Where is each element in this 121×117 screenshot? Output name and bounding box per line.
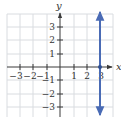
y-axis-label: y	[55, 0, 62, 11]
x-axis-label: x	[116, 61, 121, 72]
x-tick-label: −2	[23, 71, 36, 81]
x-tick-label: 2	[84, 71, 90, 81]
x-tick-label: −3	[9, 71, 23, 81]
x-intercept-point	[98, 65, 102, 69]
y-tick-label: 2	[49, 35, 55, 45]
y-tick-label: −1	[42, 75, 55, 85]
coordinate-plane: −3 −2 −1 1 2 3 3 2 1 −1 −2 −3 x y	[0, 0, 121, 117]
y-tick-label: 3	[49, 22, 55, 32]
y-tick-label: −3	[42, 102, 56, 112]
y-tick-label: 1	[49, 49, 55, 59]
x-tick-label: 1	[71, 71, 77, 81]
y-tick-label: −2	[42, 89, 55, 99]
